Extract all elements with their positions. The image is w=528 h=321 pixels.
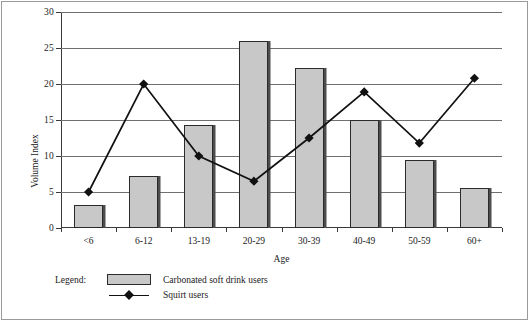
- x-tick-label: <6: [84, 236, 94, 246]
- legend-label-carbonated: Carbonated soft drink users: [163, 275, 268, 285]
- x-tick-mark: [116, 228, 117, 232]
- x-tick-mark: [61, 228, 62, 232]
- x-tick-label: 30-39: [298, 236, 320, 246]
- legend-swatch-icon: [107, 274, 151, 285]
- x-tick-mark: [447, 228, 448, 232]
- x-tick-mark: [337, 228, 338, 232]
- y-tick-label: 15: [44, 115, 54, 125]
- y-tick-label: 20: [44, 79, 54, 89]
- plot-area: 051015202530 <66-1213-1920-2930-3940-495…: [61, 12, 502, 228]
- y-tick-label: 5: [49, 187, 54, 197]
- y-tick-label: 10: [44, 151, 54, 161]
- x-tick-mark: [171, 228, 172, 232]
- line-path: [89, 78, 475, 192]
- y-tick-label: 25: [44, 43, 54, 53]
- y-tick-label: 0: [49, 223, 54, 233]
- x-tick-mark: [502, 228, 503, 232]
- diamond-marker-icon: [84, 187, 93, 196]
- x-tick-label: 6-12: [135, 236, 152, 246]
- x-tick-label: 20-29: [243, 236, 265, 246]
- legend-row-squirt: Squirt users: [107, 287, 268, 302]
- x-tick-label: 50-59: [408, 236, 430, 246]
- squirt-users-line: [61, 12, 502, 228]
- chart-figure: Volume Index 051015202530 <66-1213-1920-…: [0, 0, 528, 321]
- y-axis-label: Volume Index: [30, 134, 40, 187]
- y-tick-label: 30: [44, 7, 54, 17]
- x-tick-label: 40-49: [353, 236, 375, 246]
- line-series-squirt-users: [61, 12, 502, 228]
- x-tick-label: 60+: [467, 236, 482, 246]
- legend-label-squirt: Squirt users: [163, 290, 208, 300]
- x-tick-mark: [282, 228, 283, 232]
- x-tick-label: 13-19: [188, 236, 210, 246]
- legend-title: Legend:: [55, 275, 107, 285]
- x-axis-label: Age: [61, 254, 502, 264]
- legend: Legend: Carbonated soft drink users Squi…: [55, 272, 268, 302]
- x-tick-mark: [392, 228, 393, 232]
- x-tick-mark: [226, 228, 227, 232]
- legend-diamond-line-icon: [107, 289, 151, 300]
- legend-row-carbonated: Legend: Carbonated soft drink users: [55, 272, 268, 287]
